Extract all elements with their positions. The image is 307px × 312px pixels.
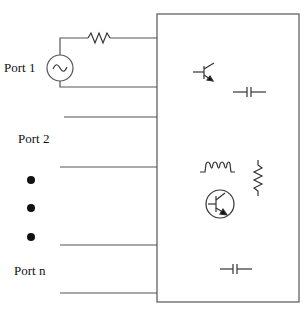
port-1-wiring [47, 33, 157, 87]
series-resistor-icon [88, 33, 110, 43]
port-1-label: Port 1 [4, 60, 35, 76]
transistor-icon [193, 63, 214, 81]
resistor-icon [254, 160, 262, 196]
port-2-label: Port 2 [18, 131, 49, 147]
capacitor-icon [233, 87, 266, 97]
network-diagram [0, 0, 307, 312]
transistor-circled-icon [206, 190, 234, 218]
vertical-ellipsis-icon [27, 176, 35, 241]
port-n-label: Port n [14, 263, 45, 279]
inductor-icon [200, 162, 235, 172]
capacitor-bottom-icon [220, 264, 252, 274]
network-box [157, 14, 299, 302]
